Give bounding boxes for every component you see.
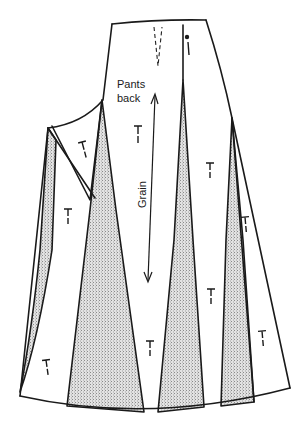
grain-label: Grain: [136, 181, 148, 208]
grainline-marker: [78, 141, 90, 159]
waist-dart: [154, 27, 162, 66]
pin-grain-tick: [188, 42, 189, 55]
slash-spread-2: [67, 100, 144, 412]
slash-spread-3: [158, 80, 204, 412]
piece-label-line1: Pants: [117, 78, 146, 90]
grainline-marker: [134, 126, 142, 143]
grainline-marker: [42, 359, 52, 375]
grainline-marker: [258, 331, 267, 347]
slash-spread-4: [221, 118, 254, 406]
pattern-outline: [20, 20, 290, 409]
slash-spread-1: [20, 128, 56, 392]
piece-label-line2: back: [117, 92, 141, 104]
grainline-marker: [146, 341, 154, 356]
pin-marker-icon: [185, 35, 189, 39]
grainline-marker: [64, 209, 72, 224]
grainline-marker: [206, 163, 214, 178]
grainline-marker: [207, 289, 215, 304]
pants-back-pattern-diagram: Pants back Grain: [0, 0, 304, 429]
